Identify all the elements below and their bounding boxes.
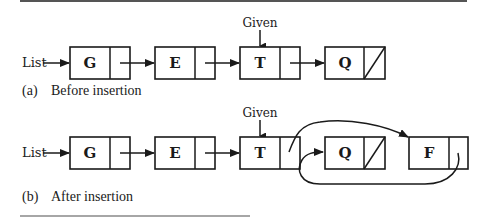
node-value: T [254,144,266,162]
node-q: Q [325,47,385,79]
node-value: Q [338,144,351,162]
given-label: Given [242,106,277,120]
node-value: G [84,144,97,162]
caption-tag-b: (b) [22,189,39,205]
caption-a: Before insertion [51,83,142,98]
node-value: E [169,144,180,162]
node-q: Q [325,137,385,169]
node-value: Q [338,54,351,72]
panel-a: List G E Given T Q (a) Before [22,16,385,99]
caption-tag-a: (a) [22,83,38,99]
caption-b: After insertion [51,189,133,204]
linked-list-insertion-diagram: List G E Given T Q (a) Before [0,0,488,218]
given-label: Given [242,16,277,30]
node-f: F [409,137,468,169]
node-value: F [424,144,435,162]
panel-b: List G E Given T Q [22,106,468,205]
node-value: E [169,54,180,72]
node-value: T [254,54,266,72]
node-t: T [240,137,300,169]
node-value: G [84,54,97,72]
